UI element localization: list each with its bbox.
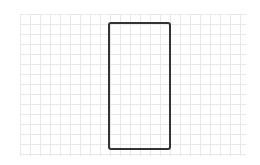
- drawing-canvas[interactable]: [0, 0, 260, 165]
- rectangle-shape[interactable]: [108, 22, 171, 150]
